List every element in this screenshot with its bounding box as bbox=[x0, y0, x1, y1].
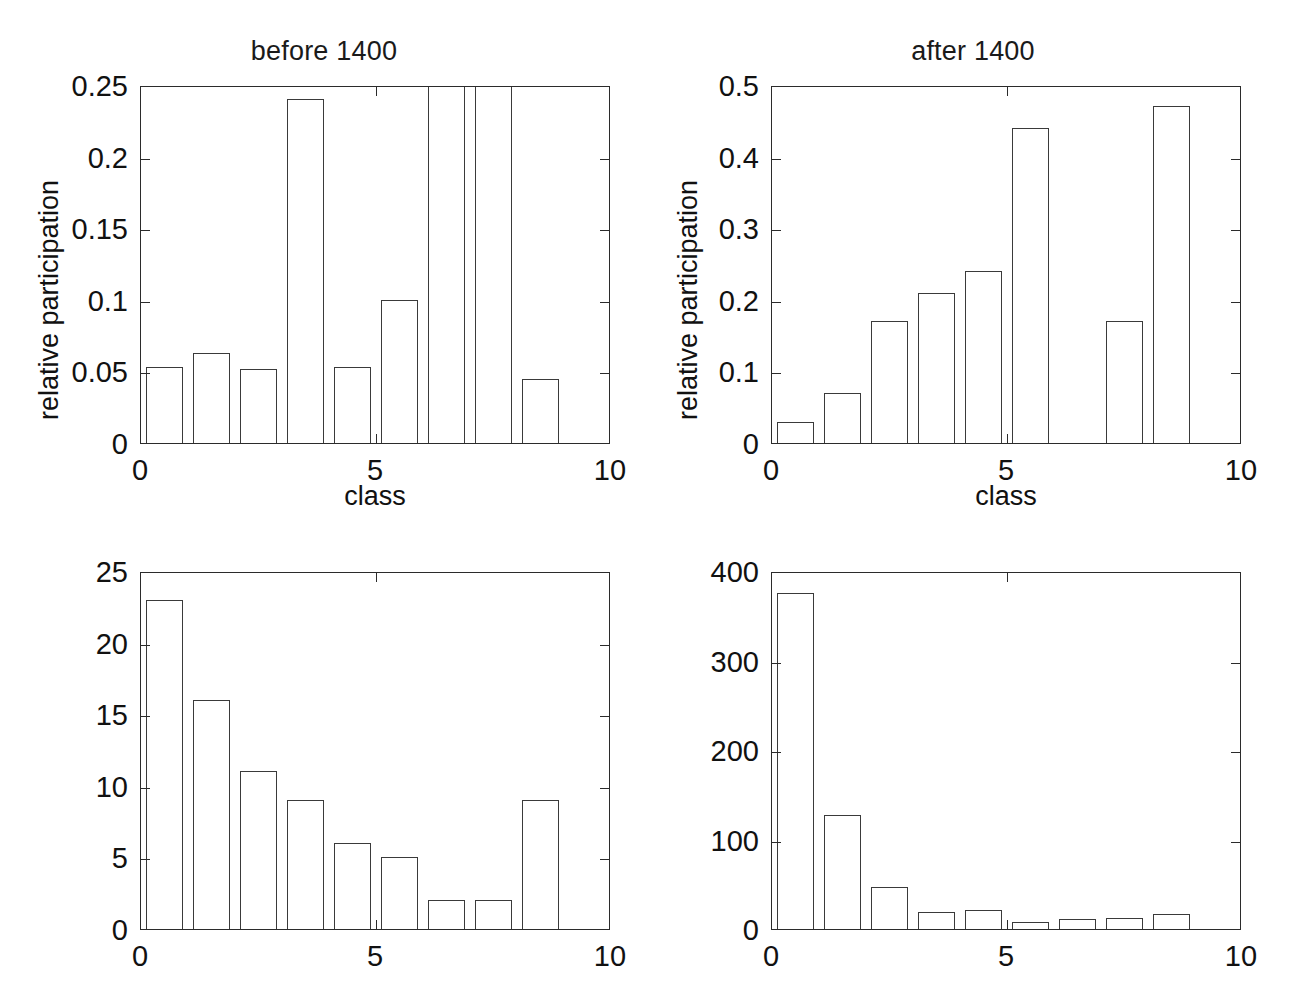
bar bbox=[1153, 106, 1189, 443]
y-axis-tick bbox=[772, 302, 781, 303]
bar bbox=[871, 887, 907, 929]
y-axis-tick bbox=[141, 645, 150, 646]
y-axis-tick-label: 0 bbox=[112, 914, 128, 947]
bar bbox=[522, 800, 558, 929]
y-axis-tick-label: 0.5 bbox=[719, 70, 759, 103]
x-axis-tick bbox=[1007, 87, 1008, 96]
x-axis-tick-label: 10 bbox=[594, 940, 626, 973]
x-axis-tick-label: 0 bbox=[132, 940, 148, 973]
bar bbox=[1012, 128, 1048, 443]
x-axis-tick bbox=[376, 920, 377, 929]
panel-title-top-left: before 1400 bbox=[0, 36, 648, 67]
y-axis-tick bbox=[141, 716, 150, 717]
y-axis-tick-label: 0 bbox=[743, 914, 759, 947]
bar bbox=[475, 900, 511, 929]
y-axis-tick bbox=[600, 230, 609, 231]
x-axis-tick-label: 5 bbox=[367, 940, 383, 973]
bar bbox=[965, 910, 1001, 929]
bar bbox=[1153, 914, 1189, 929]
bar bbox=[1106, 918, 1142, 929]
bar bbox=[475, 86, 511, 443]
x-axis-tick-label: 0 bbox=[763, 940, 779, 973]
x-axis-tick-label: 10 bbox=[1225, 940, 1257, 973]
bar bbox=[240, 771, 276, 929]
bar bbox=[1059, 919, 1095, 929]
y-axis-tick-label: 200 bbox=[711, 735, 759, 768]
y-axis-tick bbox=[141, 230, 150, 231]
x-axis-tick-label: 5 bbox=[998, 454, 1014, 487]
bar bbox=[146, 600, 182, 929]
y-axis-tick-label: 10 bbox=[96, 770, 128, 803]
y-axis-tick-label: 100 bbox=[711, 824, 759, 857]
plot-area-top-left bbox=[140, 86, 610, 444]
y-axis-tick-label: 0 bbox=[112, 428, 128, 461]
y-axis-tick bbox=[1231, 373, 1240, 374]
bar bbox=[965, 271, 1001, 443]
bar bbox=[334, 367, 370, 443]
y-axis-tick bbox=[772, 842, 781, 843]
y-axis-tick-label: 0.25 bbox=[72, 70, 128, 103]
y-axis-tick bbox=[772, 230, 781, 231]
plot-area-top-right bbox=[771, 86, 1241, 444]
bar bbox=[824, 393, 860, 443]
y-axis-tick-label: 0.2 bbox=[719, 284, 759, 317]
bar bbox=[1106, 321, 1142, 443]
bar bbox=[824, 815, 860, 929]
y-axis-tick-label: 0.3 bbox=[719, 213, 759, 246]
y-axis-tick-label: 0.1 bbox=[88, 284, 128, 317]
y-axis-tick bbox=[600, 716, 609, 717]
x-axis-tick-label: 10 bbox=[1225, 454, 1257, 487]
y-axis-tick-label: 0 bbox=[743, 428, 759, 461]
y-axis-tick bbox=[1231, 230, 1240, 231]
figure-canvas: before 1400 relative participation class… bbox=[0, 0, 1297, 1002]
y-axis-tick bbox=[772, 373, 781, 374]
bar bbox=[522, 379, 558, 443]
bar bbox=[428, 900, 464, 929]
bar bbox=[777, 593, 813, 929]
y-axis-title-top-left: relative participation bbox=[34, 180, 65, 420]
y-axis-tick bbox=[600, 302, 609, 303]
x-axis-tick bbox=[1007, 434, 1008, 443]
y-axis-tick-label: 15 bbox=[96, 699, 128, 732]
bar bbox=[918, 912, 954, 929]
bar bbox=[193, 700, 229, 929]
x-axis-tick-label: 0 bbox=[763, 454, 779, 487]
y-axis-tick bbox=[600, 788, 609, 789]
x-axis-tick bbox=[376, 87, 377, 96]
y-axis-tick bbox=[1231, 842, 1240, 843]
y-axis-tick-label: 0.4 bbox=[719, 141, 759, 174]
y-axis-tick-label: 300 bbox=[711, 645, 759, 678]
bar bbox=[428, 86, 464, 443]
plot-area-bottom-left bbox=[140, 572, 610, 930]
bar bbox=[146, 367, 182, 443]
y-axis-tick bbox=[141, 373, 150, 374]
y-axis-tick-label: 0.2 bbox=[88, 141, 128, 174]
y-axis-tick-label: 400 bbox=[711, 556, 759, 589]
bar bbox=[381, 300, 417, 443]
x-axis-tick bbox=[1007, 573, 1008, 582]
bar bbox=[334, 843, 370, 929]
bar bbox=[287, 99, 323, 443]
y-axis-tick-label: 0.05 bbox=[72, 356, 128, 389]
x-axis-tick bbox=[376, 573, 377, 582]
panel-bottom-right: 01002003004000510 bbox=[649, 520, 1297, 1002]
y-axis-tick bbox=[600, 159, 609, 160]
y-axis-tick-label: 20 bbox=[96, 627, 128, 660]
y-axis-tick-label: 0.15 bbox=[72, 213, 128, 246]
y-axis-title-top-right: relative participation bbox=[673, 180, 704, 420]
x-axis-tick-label: 5 bbox=[998, 940, 1014, 973]
y-axis-tick bbox=[600, 373, 609, 374]
y-axis-tick bbox=[141, 159, 150, 160]
y-axis-tick bbox=[141, 302, 150, 303]
y-axis-tick bbox=[772, 159, 781, 160]
bar bbox=[240, 369, 276, 443]
x-axis-tick bbox=[376, 434, 377, 443]
panel-title-top-right: after 1400 bbox=[649, 36, 1297, 67]
y-axis-tick bbox=[772, 752, 781, 753]
y-axis-tick bbox=[1231, 752, 1240, 753]
y-axis-tick bbox=[1231, 663, 1240, 664]
y-axis-tick bbox=[1231, 302, 1240, 303]
x-axis-tick-label: 0 bbox=[132, 454, 148, 487]
bar bbox=[918, 293, 954, 443]
bar bbox=[1012, 922, 1048, 929]
